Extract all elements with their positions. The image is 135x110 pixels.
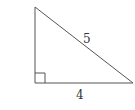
base-label: 4 bbox=[76, 88, 84, 102]
triangle-diagram: 5 4 bbox=[0, 0, 135, 110]
hypotenuse-label: 5 bbox=[83, 32, 91, 46]
right-angle-marker bbox=[35, 73, 45, 83]
